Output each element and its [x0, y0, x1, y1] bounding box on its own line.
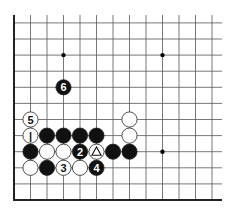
stone-disc	[23, 160, 38, 175]
black-stone	[122, 144, 137, 159]
star-point	[160, 150, 164, 154]
stone-disc	[23, 144, 38, 159]
stone-disc	[72, 128, 87, 143]
white-stone	[89, 144, 104, 159]
stone-disc	[122, 112, 137, 127]
white-stone	[122, 112, 137, 127]
stone-disc	[89, 128, 104, 143]
black-stone: 2	[72, 144, 87, 159]
white-stone: |	[23, 128, 38, 143]
move-number: 5	[27, 114, 33, 126]
black-stone	[39, 128, 54, 143]
white-stone: 5	[23, 112, 38, 127]
star-point	[160, 53, 164, 57]
black-stone	[89, 128, 104, 143]
move-number: 3	[60, 162, 66, 174]
stone-disc	[56, 144, 71, 159]
white-stone	[39, 144, 54, 159]
stone-disc	[39, 160, 54, 175]
star-point	[61, 53, 65, 57]
move-number: 2	[77, 146, 83, 158]
stone-disc	[72, 160, 87, 175]
white-stone: 3	[56, 160, 71, 175]
go-board: 65|234	[0, 0, 236, 213]
black-stone	[56, 128, 71, 143]
stone-disc	[122, 128, 137, 143]
stone-disc	[39, 128, 54, 143]
black-stone: 6	[56, 80, 71, 95]
white-stone	[23, 160, 38, 175]
black-stone	[39, 160, 54, 175]
stone-disc	[39, 144, 54, 159]
stone-disc	[122, 144, 137, 159]
stone-disc	[105, 144, 120, 159]
white-stone	[56, 144, 71, 159]
white-stone	[122, 128, 137, 143]
white-stone	[72, 160, 87, 175]
black-stone	[23, 144, 38, 159]
black-stone	[105, 144, 120, 159]
black-stone: 4	[89, 160, 104, 175]
stone-disc	[56, 128, 71, 143]
move-number: 4	[93, 162, 100, 174]
move-number: |	[29, 130, 32, 142]
black-stone	[72, 128, 87, 143]
move-number: 6	[60, 81, 66, 93]
